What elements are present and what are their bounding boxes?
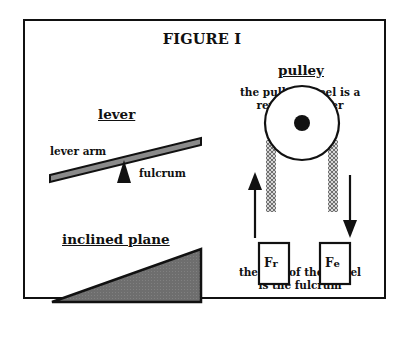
pulley-rope-left [266, 140, 276, 212]
pulley-axle-icon [294, 115, 310, 131]
weight-label-effort: Fe [325, 256, 340, 270]
arrow-down-icon [343, 175, 357, 238]
inclined-plane-wedge [52, 249, 201, 302]
weight-label-resistance: Fr [264, 256, 278, 270]
diagram-artwork [0, 0, 404, 344]
arrow-up-icon [248, 172, 262, 238]
pulley-rope-right [328, 140, 338, 212]
